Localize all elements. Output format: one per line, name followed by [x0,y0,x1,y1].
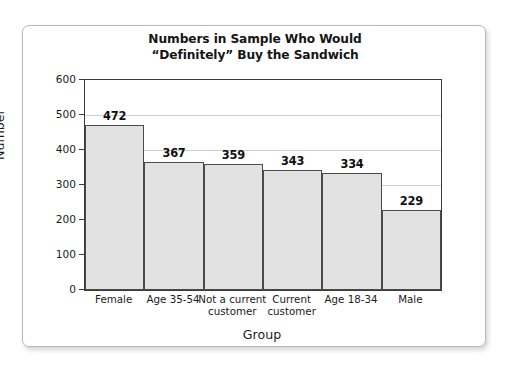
y-axis-tick-label: 500 [36,108,76,120]
bar [322,173,381,290]
x-axis-category-label-line: customer [267,305,316,317]
bars-layer: 472367359343334229 [85,80,441,290]
figure-root: Numbers in Sample Who Would “Definitely”… [0,0,507,373]
y-axis-tick-mark [79,219,84,220]
y-axis-tick-mark [79,149,84,150]
bar [204,164,263,290]
bar-value-label: 472 [103,109,126,123]
bar [85,125,144,290]
y-axis-tick-label: 300 [36,178,76,190]
x-axis-category-label-line: Not a current [198,293,266,305]
y-axis-tick-mark [79,184,84,185]
bar-value-label: 367 [162,146,185,160]
y-axis-tick-label: 600 [36,73,76,85]
x-axis-category-label: Currentcustomer [267,293,316,318]
x-axis-category-label: Female [95,293,132,305]
bar-value-label: 359 [222,148,245,162]
x-axis-category-label: Age 35-54 [146,293,199,305]
x-axis-category-label-line: Age 35-54 [146,293,199,305]
bar-value-label: 229 [400,194,423,208]
bar-value-label: 343 [281,154,304,168]
x-axis-title: Group [84,327,440,342]
y-axis-tick-label: 100 [36,248,76,260]
x-axis-category-label: Age 18-34 [324,293,377,305]
chart-title: Numbers in Sample Who Would “Definitely”… [60,32,450,63]
x-axis-category-label: Male [398,293,422,305]
x-axis-category-label-line: Age 18-34 [324,293,377,305]
chart-title-line-1: Numbers in Sample Who Would [60,32,450,48]
x-axis-category-label: Not a currentcustomer [198,293,266,318]
y-axis-tick-label: 200 [36,213,76,225]
bar [382,210,441,290]
x-axis-category-label-line: Male [398,293,422,305]
y-axis-tick-label: 0 [36,283,76,295]
x-axis-category-label-line: customer [198,305,266,317]
bar-value-label: 334 [340,157,363,171]
y-axis-tick-mark [79,114,84,115]
x-axis-category-label-line: Current [272,293,311,305]
x-axis-category-label-line: Female [95,293,132,305]
bar [144,162,203,290]
y-axis-title: Number [0,109,7,160]
y-axis-tick-mark [79,254,84,255]
plot-area: 472367359343334229 [84,79,442,291]
y-axis-tick-mark [79,79,84,80]
chart-title-line-2: “Definitely” Buy the Sandwich [60,48,450,64]
bar [263,170,322,290]
y-axis-tick-label: 400 [36,143,76,155]
y-axis-tick-mark [79,289,84,290]
